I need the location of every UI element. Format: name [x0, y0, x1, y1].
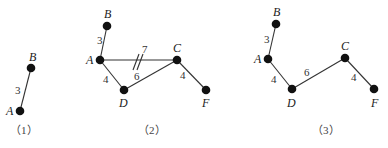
label-d: D [286, 96, 296, 110]
weight-a-b: 3 [97, 34, 103, 46]
node-f [202, 86, 211, 95]
edge-d-c [292, 58, 345, 89]
figure-3: 3 4 6 4 B A D C F （3） [253, 5, 379, 136]
figure-2: 3 7 4 6 4 B A C D F （2） [85, 7, 210, 136]
edge-c-f [345, 58, 374, 89]
label-a: A [5, 104, 14, 118]
edge-a-b [20, 68, 31, 111]
weight-c-f: 4 [351, 71, 357, 83]
label-a: A [85, 53, 94, 67]
weight-a-d: 4 [271, 73, 277, 85]
node-b [103, 22, 112, 31]
label-b: B [104, 7, 112, 21]
label-f: F [370, 96, 379, 110]
node-b [272, 20, 281, 29]
weight-a-d: 4 [103, 73, 109, 85]
label-c: C [341, 39, 350, 53]
caption-3: （3） [312, 124, 340, 136]
edge-d-c [124, 60, 177, 90]
node-b [27, 64, 36, 73]
weight-d-c: 6 [304, 66, 310, 78]
node-d [288, 85, 297, 94]
node-c [173, 56, 182, 65]
graph-diagram: 3 B A （1） 3 7 4 6 4 B A C D F （2） [0, 0, 388, 148]
caption-1: （1） [10, 124, 38, 136]
label-a: A [253, 52, 262, 66]
weight-a-b: 3 [264, 33, 270, 45]
node-c [341, 54, 350, 63]
weight-a-c: 7 [142, 43, 148, 55]
weight-c-f: 4 [180, 69, 186, 81]
node-d [120, 86, 129, 95]
weight-a-b: 3 [15, 84, 21, 96]
weight-d-c: 6 [134, 70, 140, 82]
node-f [370, 85, 379, 94]
label-c: C [173, 41, 182, 55]
node-a [16, 107, 25, 116]
node-a [264, 55, 273, 64]
figure-1: 3 B A （1） [5, 50, 38, 136]
label-b: B [273, 5, 281, 19]
label-f: F [201, 96, 210, 110]
label-b: B [29, 50, 37, 64]
node-a [96, 56, 105, 65]
label-d: D [118, 96, 128, 110]
caption-2: （2） [138, 124, 166, 136]
